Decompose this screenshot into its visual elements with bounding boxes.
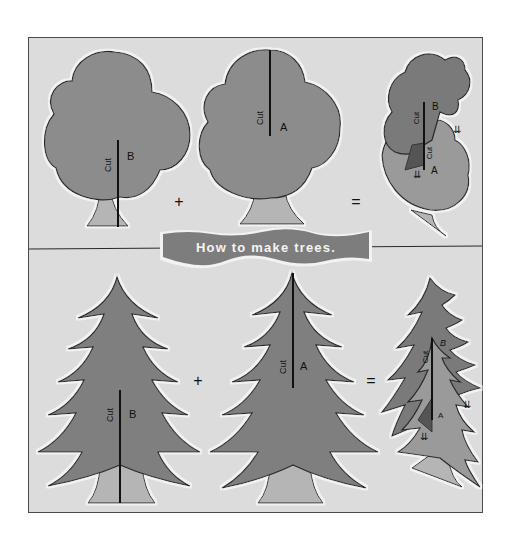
plus-operator: +	[174, 193, 183, 210]
cut-label: Cut	[255, 111, 265, 126]
cut-label: Cut	[412, 111, 421, 124]
equals-operator: =	[351, 193, 360, 210]
cut-label: Cut	[105, 408, 115, 423]
piece-label-b: B	[129, 408, 136, 420]
down-arrows-icon: ⇊	[420, 431, 428, 442]
equals-operator: =	[366, 372, 375, 389]
deciduous-tree-assembled	[382, 54, 470, 236]
title-text: How to make trees.	[162, 230, 370, 264]
piece-label-a: A	[431, 165, 438, 176]
piece-label-a: A	[300, 360, 308, 372]
piece-label-b: B	[127, 150, 134, 162]
title-banner: How to make trees.	[162, 230, 370, 264]
tree-diagram: Cut B + Cut A = Cut B Cut A ⇊ ⇊ Cut B + …	[0, 0, 511, 540]
cut-label: Cut	[103, 158, 113, 173]
down-arrows-icon: ⇊	[413, 169, 421, 180]
plus-operator: +	[193, 372, 202, 389]
piece-label-a: A	[438, 411, 444, 420]
down-arrows-icon: ⇊	[463, 399, 471, 410]
cut-label: Cut	[425, 146, 434, 159]
cut-label: Cut	[278, 360, 288, 375]
piece-label-b: B	[432, 101, 439, 112]
cut-label: Cut	[421, 350, 430, 363]
down-arrows-icon: ⇊	[453, 124, 461, 135]
piece-label-b: B	[440, 338, 446, 348]
piece-label-a: A	[280, 121, 288, 133]
